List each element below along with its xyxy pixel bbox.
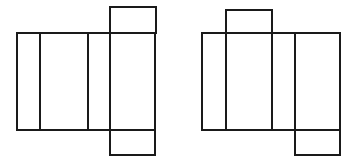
left-net-band-fill (17, 33, 155, 130)
box-nets-diagram (0, 0, 361, 164)
left-net-bottom-flap-fill (110, 130, 155, 155)
right-net-top-flap-fill (226, 10, 272, 33)
figure-canvas (0, 0, 361, 164)
right-net-bottom-flap-fill (295, 130, 340, 155)
left-net-top-flap-fill (110, 7, 156, 33)
